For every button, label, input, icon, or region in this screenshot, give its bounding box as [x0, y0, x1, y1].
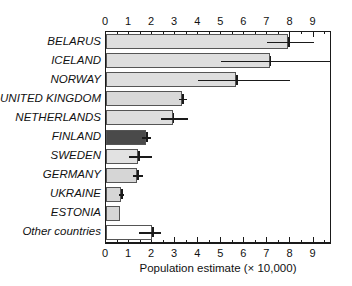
x-tick-label: 2: [148, 247, 154, 259]
error-bar-cap: [270, 56, 272, 66]
error-bar-line: [129, 156, 152, 158]
x-tick-label: 2: [148, 15, 154, 27]
category-label: FINLAND: [0, 130, 101, 143]
error-bar-cap: [121, 189, 123, 199]
x-tick-label: 1: [125, 15, 131, 27]
x-tick-label: 4: [194, 247, 200, 259]
category-label: NORWAY: [0, 72, 101, 85]
x-axis-title: Population estimate (× 10,000): [105, 262, 331, 274]
error-bar-cap: [152, 227, 154, 237]
x-tick-label: 7: [263, 15, 269, 27]
x-tick-label: 3: [171, 15, 177, 27]
x-tick-label: 1: [125, 247, 131, 259]
x-tick-label: 4: [194, 15, 200, 27]
category-label: UKRAINE: [0, 187, 101, 200]
bar: [106, 34, 288, 49]
error-bar-cap: [138, 151, 140, 161]
x-tick-label: 0: [102, 247, 108, 259]
category-label: ICELAND: [0, 53, 101, 66]
x-tick-label: 9: [309, 15, 315, 27]
error-bar-line: [267, 42, 313, 44]
category-label: NETHERLANDS: [0, 110, 101, 123]
x-tick-label: 6: [240, 247, 246, 259]
x-tick-label: 5: [217, 247, 223, 259]
x-tick-label: 6: [240, 15, 246, 27]
error-bar-cap: [236, 75, 238, 85]
population-bar-chart: 0123456789 0123456789 BELARUSICELANDNORW…: [0, 0, 352, 286]
error-bar-line: [161, 118, 188, 120]
bar: [106, 206, 120, 221]
error-bar-cap: [182, 94, 184, 104]
bar: [106, 130, 146, 145]
category-label: Other countries: [0, 225, 101, 238]
x-tick-label: 0: [102, 15, 108, 27]
error-bar-cap: [137, 170, 139, 180]
category-label: BELARUS: [0, 34, 101, 47]
error-bar-cap: [288, 37, 290, 47]
x-axis-bottom-line: [105, 243, 331, 244]
x-tick-label: 7: [263, 247, 269, 259]
category-label: UNITED KINGDOM: [0, 91, 101, 104]
category-label: GERMANY: [0, 168, 101, 181]
x-tick-label: 9: [309, 247, 315, 259]
x-tick-label: 8: [286, 247, 292, 259]
x-tick-label: 5: [217, 15, 223, 27]
error-bar-line: [139, 232, 161, 234]
x-tick-label: 8: [286, 15, 292, 27]
bar: [106, 91, 182, 106]
error-bar-line: [198, 80, 290, 82]
x-tick-label: 3: [171, 247, 177, 259]
bars-layer: [106, 32, 330, 242]
category-label: SWEDEN: [0, 149, 101, 162]
error-bar-cap: [173, 113, 175, 123]
error-bar-line: [221, 61, 330, 63]
category-label: ESTONIA: [0, 206, 101, 219]
error-bar-cap: [146, 132, 148, 142]
category-axis-labels: BELARUSICELANDNORWAYUNITED KINGDOMNETHER…: [0, 31, 101, 243]
